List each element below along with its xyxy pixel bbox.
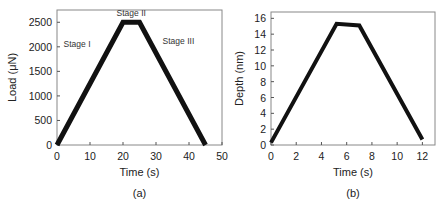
panel-label: (a): [133, 187, 146, 199]
y-tick-label: 16: [254, 12, 266, 24]
figure: 0102030405005001000150020002500Time (s)L…: [0, 0, 443, 209]
x-tick-label: 20: [117, 150, 129, 162]
y-tick-label: 8: [260, 76, 266, 88]
plot-frame-1: [271, 12, 435, 145]
y-tick-label: 1000: [29, 90, 53, 102]
annotation-stage-ii: Stage II: [117, 8, 146, 18]
panel-label: (b): [346, 187, 359, 199]
x-tick-label: 10: [391, 150, 403, 162]
y-tick-label: 500: [34, 114, 52, 126]
x-tick-label: 0: [268, 150, 274, 162]
y-tick-label: 14: [254, 28, 266, 40]
y-tick-label: 1500: [29, 65, 53, 77]
x-tick-label: 40: [183, 150, 195, 162]
annotation-stage-i: Stage I: [64, 39, 91, 49]
x-tick-label: 50: [216, 150, 228, 162]
y-axis-label: Depth (nm): [233, 51, 245, 106]
y-tick-label: 0: [46, 139, 52, 151]
annotation-stage-iii: Stage III: [163, 36, 195, 46]
x-tick-label: 12: [417, 150, 429, 162]
x-tick-label: 6: [344, 150, 350, 162]
x-tick-label: 2: [293, 150, 299, 162]
x-axis-label: Time (s): [333, 166, 373, 178]
series-line-depth: [271, 24, 422, 143]
x-tick-label: 30: [150, 150, 162, 162]
y-tick-label: 6: [260, 92, 266, 104]
y-axis-label: Load (μN): [6, 53, 18, 102]
y-tick-label: 2: [260, 123, 266, 135]
y-tick-label: 4: [260, 107, 266, 119]
y-tick-label: 0: [260, 139, 266, 151]
y-tick-label: 2500: [29, 16, 53, 28]
x-tick-label: 4: [319, 150, 325, 162]
y-tick-label: 10: [254, 60, 266, 72]
x-tick-label: 10: [84, 150, 96, 162]
y-tick-label: 2000: [29, 41, 53, 53]
y-tick-label: 12: [254, 44, 266, 56]
x-tick-label: 0: [54, 150, 60, 162]
x-tick-label: 8: [369, 150, 375, 162]
x-axis-label: Time (s): [120, 166, 160, 178]
